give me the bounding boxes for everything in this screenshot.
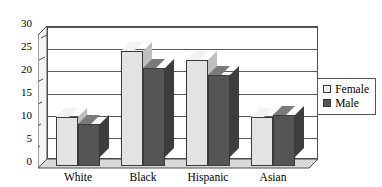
bar-hispanic-female bbox=[186, 60, 208, 166]
bar-front bbox=[78, 124, 100, 166]
bar-front bbox=[121, 51, 143, 166]
legend-swatch-male-icon bbox=[323, 99, 331, 107]
bar-black-female bbox=[121, 51, 143, 166]
y-tick-label-5: 5 bbox=[27, 133, 33, 144]
bar-white-male bbox=[78, 124, 100, 166]
x-axis: White Black Hispanic Asian bbox=[38, 169, 320, 187]
gridline-15 bbox=[48, 94, 317, 95]
y-tick-label-25: 25 bbox=[21, 41, 32, 52]
bar-front bbox=[186, 60, 208, 166]
y-tick-label-20: 20 bbox=[21, 64, 32, 75]
legend-label-male: Male bbox=[335, 96, 359, 110]
bar-asian-female bbox=[251, 117, 273, 166]
bar-white-female bbox=[56, 117, 78, 166]
legend-item-male: Male bbox=[323, 96, 369, 110]
bar-black-male bbox=[143, 68, 165, 166]
x-tick-label-white: White bbox=[64, 171, 92, 184]
y-tick-label-10: 10 bbox=[21, 110, 32, 121]
bar-side-face bbox=[230, 66, 239, 157]
gridline-25 bbox=[48, 49, 317, 50]
y-tick-label-30: 30 bbox=[21, 18, 32, 29]
legend: Female Male bbox=[317, 78, 376, 115]
bar-side-face bbox=[295, 106, 304, 157]
bar-hispanic-male bbox=[208, 75, 230, 166]
bar-front bbox=[56, 117, 78, 166]
bar-asian-male bbox=[273, 115, 295, 166]
y-axis: 30 25 20 15 10 5 0 bbox=[0, 18, 36, 178]
gridline-20 bbox=[48, 71, 317, 72]
y-tick-label-0: 0 bbox=[27, 156, 33, 167]
bar-chart: 30 25 20 15 10 5 0 bbox=[0, 0, 382, 187]
y-tick-label-15: 15 bbox=[21, 87, 32, 98]
x-tick-label-asian: Asian bbox=[260, 171, 287, 184]
plot-area bbox=[38, 26, 318, 168]
bar-front bbox=[208, 75, 230, 166]
bar-front bbox=[143, 68, 165, 166]
legend-item-female: Female bbox=[323, 82, 369, 96]
x-tick-label-hispanic: Hispanic bbox=[188, 171, 229, 184]
bar-side-face bbox=[165, 59, 174, 157]
gridline-30 bbox=[48, 27, 317, 28]
bar-front bbox=[273, 115, 295, 166]
legend-label-female: Female bbox=[335, 82, 369, 96]
legend-swatch-female-icon bbox=[323, 85, 331, 93]
x-tick-label-black: Black bbox=[130, 171, 157, 184]
bar-front bbox=[251, 117, 273, 166]
